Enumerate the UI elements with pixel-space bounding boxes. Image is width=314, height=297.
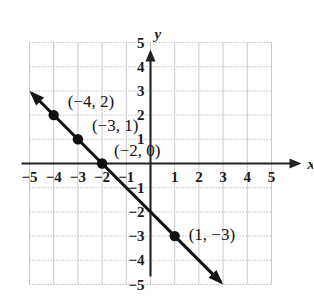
x-tick-label-1: 1	[171, 169, 179, 185]
graph-canvas: −5−4−3−2−112345 54321−1−2−3−4−5 xy (−4, …	[0, 0, 313, 297]
axis-name-labels: xy	[153, 26, 314, 172]
y-tick-label-neg2: −2	[128, 204, 144, 220]
plot-point-2	[97, 158, 107, 168]
x-tick-label-2: 2	[195, 169, 203, 185]
y-tick-label-neg3: −3	[128, 228, 144, 244]
y-tick-label-neg5: −5	[128, 277, 144, 293]
y-tick-label-neg4: −4	[128, 252, 145, 268]
x-axis-arrowhead	[290, 159, 302, 169]
x-tick-label-5: 5	[268, 169, 276, 185]
x-axis-tick-labels: −5−4−3−2−112345	[21, 169, 275, 185]
point-label-1: (−3, 1)	[92, 116, 138, 135]
y-tick-label-4: 4	[137, 59, 145, 75]
x-tick-label-4: 4	[244, 169, 252, 185]
plot-point-3	[170, 231, 180, 241]
y-axis-arrowhead	[146, 50, 156, 62]
axes-group	[22, 50, 302, 277]
x-axis-name: x	[307, 156, 314, 172]
x-tick-label-3: 3	[219, 169, 227, 185]
point-label-2: (−2, 0)	[114, 141, 160, 160]
x-tick-label-neg5: −5	[21, 169, 37, 185]
coordinate-plane-figure: −5−4−3−2−112345 54321−1−2−3−4−5 xy (−4, …	[0, 0, 313, 297]
y-axis-name: y	[153, 26, 162, 42]
point-label-3: (1, −3)	[189, 225, 235, 244]
x-tick-label-neg3: −3	[70, 169, 86, 185]
y-tick-label-3: 3	[137, 83, 145, 99]
plot-point-0	[49, 110, 59, 120]
y-tick-label-5: 5	[137, 35, 145, 51]
x-tick-label-neg4: −4	[46, 169, 63, 185]
plot-point-1	[73, 134, 83, 144]
point-label-0: (−4, 2)	[68, 92, 114, 111]
